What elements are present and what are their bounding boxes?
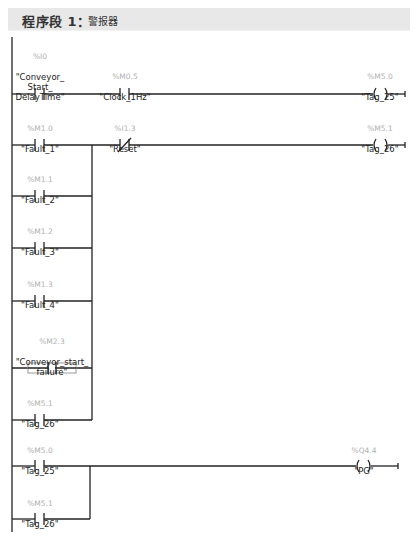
- operand-name: "PG": [352, 466, 377, 476]
- operand-name: "Fault_2": [21, 195, 59, 205]
- rung-3: [12, 460, 398, 525]
- operand-name: "Clock_1Hz": [99, 92, 150, 102]
- operand-address: %M1.2: [21, 227, 59, 237]
- operand-name: "Conveyor_start_ failure": [16, 357, 89, 377]
- operand-address: %M1.0: [21, 124, 59, 134]
- operand-address: %Q4.4: [352, 446, 377, 456]
- operand-name: "Tag_25": [361, 92, 398, 102]
- operand-name: "Tag_26": [361, 144, 398, 154]
- operand-address: %M5.0: [21, 446, 58, 456]
- contact-conveyor-start-delaytime[interactable]: %I0 "Conveyor_ Start_ DelayTime": [15, 42, 64, 112]
- coil-tag-25[interactable]: %M5.0 "Tag_25": [361, 62, 398, 112]
- contact-tag-25[interactable]: %M5.0 "Tag_25": [21, 436, 58, 486]
- operand-address: %M5.1: [21, 499, 58, 509]
- operand-name: "Conveyor_ Start_ DelayTime": [15, 72, 64, 102]
- contact-conveyor-start-failure[interactable]: %M2.3 "Conveyor_start_ failure": [16, 327, 89, 387]
- operand-address: %M5.1: [361, 124, 398, 134]
- coil-tag-26[interactable]: %M5.1 "Tag_26": [361, 114, 398, 164]
- operand-address: %M1.3: [21, 280, 59, 290]
- contact-fault-4[interactable]: %M1.3 "Fault_4": [21, 270, 59, 320]
- operand-address: %M1.1: [21, 175, 59, 185]
- operand-address: %I0: [15, 52, 64, 62]
- rung-1: [12, 88, 405, 100]
- operand-address: %I1.3: [109, 124, 141, 134]
- operand-name: "Fault_3": [21, 247, 59, 257]
- operand-name: "Fault_4": [21, 300, 59, 310]
- operand-name: "Tag_25": [21, 466, 58, 476]
- operand-name: "Tag_26": [21, 419, 58, 429]
- contact-fault-1[interactable]: %M1.0 "Fault_1": [21, 114, 59, 164]
- operand-address: %M5.1: [21, 399, 58, 409]
- operand-address: %M2.3: [16, 337, 89, 347]
- operand-name: "Tag_26": [21, 519, 58, 529]
- coil-pg[interactable]: %Q4.4 "PG": [352, 436, 377, 486]
- operand-name: "Reset": [109, 144, 141, 154]
- contact-reset-nc[interactable]: %I1.3 "Reset": [109, 114, 141, 164]
- contact-clock-1hz[interactable]: %M0.5 "Clock_1Hz": [99, 62, 150, 112]
- operand-address: %M5.0: [361, 72, 398, 82]
- operand-address: %M0.5: [99, 72, 150, 82]
- operand-name: "Fault_1": [21, 144, 59, 154]
- contact-fault-3[interactable]: %M1.2 "Fault_3": [21, 217, 59, 267]
- contact-tag-26-branch[interactable]: %M5.1 "Tag_26": [21, 489, 58, 539]
- contact-fault-2[interactable]: %M1.1 "Fault_2": [21, 165, 59, 215]
- contact-tag-26[interactable]: %M5.1 "Tag_26": [21, 389, 58, 439]
